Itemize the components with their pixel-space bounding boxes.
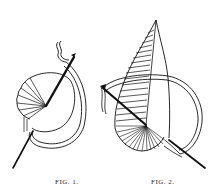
stitch-diagrams: [0, 0, 215, 192]
figure-1-caption: FIG. 1.: [55, 178, 79, 186]
illustration-plate: FIG. 1. FIG. 2.: [0, 0, 215, 192]
fig2-wedge-right: [156, 20, 168, 78]
figure-2-needle: [100, 84, 205, 168]
figure-2-drawing: [101, 20, 202, 157]
fig2-fan-rays: [116, 126, 166, 151]
fig1-fan-scallops: [17, 78, 30, 119]
figure-1-needle: [13, 53, 76, 168]
figure-2-caption: FIG. 2.: [151, 178, 175, 186]
